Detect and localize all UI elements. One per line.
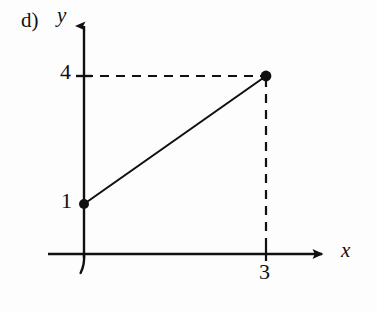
y-tick-label-4: 4: [60, 61, 71, 83]
y-tick-label-1: 1: [61, 190, 72, 212]
y-axis: [81, 26, 85, 273]
y-axis-label: y: [57, 5, 66, 26]
data-point-0-1: [79, 199, 89, 209]
data-point-3-4: [261, 71, 272, 82]
guide-lines: [84, 76, 266, 254]
axis-ticks: [76, 76, 266, 261]
line-segment: [84, 76, 266, 204]
x-axis-label: x: [341, 240, 350, 261]
coordinate-plane-figure: d) y x 4 1 3: [0, 0, 377, 313]
part-label: d): [21, 10, 39, 31]
plotted-segment: [79, 71, 271, 209]
y-axis-tail: [81, 254, 85, 273]
x-tick-label-3: 3: [259, 261, 270, 283]
plot-canvas: [0, 0, 377, 313]
